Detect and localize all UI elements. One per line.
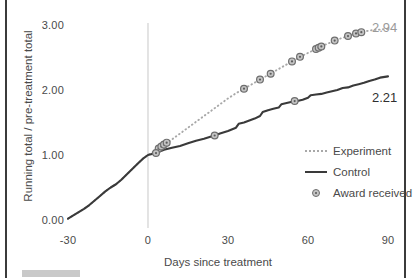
y-axis-label: Running total / pre-treatment total (22, 16, 34, 216)
legend-item-experiment: Experiment (303, 140, 408, 161)
experiment-end-value: 2.94 (372, 20, 397, 35)
x-tick-60: 60 (288, 234, 328, 246)
x-tick-30: 30 (208, 234, 248, 246)
legend-label-award: Award received (329, 187, 412, 199)
solid-line-icon (303, 166, 329, 178)
dotted-line-icon (303, 145, 329, 157)
x-axis-label: Days since treatment (118, 256, 318, 268)
legend-label-control: Control (329, 166, 370, 178)
award-markers (153, 29, 365, 157)
chart-legend: Experiment Control Award received (303, 140, 408, 203)
x-tick-minus30: -30 (48, 234, 88, 246)
chart-screenshot: 3.00 2.00 1.00 0.00 -30 0 30 60 90 Runni… (0, 0, 416, 278)
legend-item-control: Control (303, 161, 408, 182)
control-end-value: 2.21 (372, 90, 397, 105)
legend-item-award: Award received (303, 182, 408, 203)
x-tick-90: 90 (368, 234, 408, 246)
x-tick-0: 0 (128, 234, 168, 246)
legend-label-experiment: Experiment (329, 145, 391, 157)
circle-marker-icon (303, 187, 329, 199)
